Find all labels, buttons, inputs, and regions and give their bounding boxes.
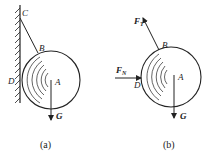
figure-b: FT FN B D A G (b) (115, 16, 201, 151)
point-a-label: A (177, 72, 184, 82)
rope-cb (20, 18, 38, 53)
tension-label: FT (133, 16, 144, 27)
ball (141, 47, 201, 107)
tension-arrow (143, 18, 159, 50)
statics-diagram: C B D A G (a) FT FN B D A G (b) (0, 0, 205, 159)
point-b-label: B (162, 40, 168, 50)
weight-label: G (56, 111, 63, 121)
point-c-label: C (22, 8, 29, 18)
normal-force-label: FN (115, 65, 127, 76)
wall-hatching (15, 8, 20, 103)
ball-shading (27, 57, 48, 103)
ball-shading (147, 54, 167, 100)
point-d-label: D (133, 80, 141, 90)
figure-a: C B D A G (a) (7, 5, 80, 151)
weight-label: G (180, 111, 187, 121)
point-d-label: D (7, 76, 15, 86)
point-a-label: A (54, 77, 61, 87)
caption-b: (b) (163, 139, 175, 151)
caption-a: (a) (40, 139, 51, 151)
point-b-label: B (39, 43, 45, 53)
